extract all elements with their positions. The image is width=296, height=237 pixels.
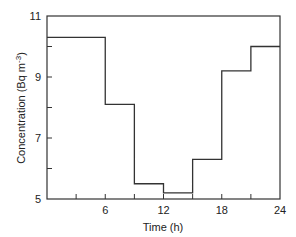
y-tick-label: 11 bbox=[30, 10, 41, 22]
x-tick-label: 6 bbox=[102, 204, 108, 216]
y-axis-title: Concentration (Bq m-3) bbox=[14, 52, 27, 164]
tick-labels: 612182457911 bbox=[30, 10, 287, 216]
step-line bbox=[47, 37, 280, 193]
x-tick-label: 18 bbox=[216, 204, 228, 216]
x-axis-title: Time (h) bbox=[143, 221, 184, 233]
y-axis-title-main: Concentration (Bq m bbox=[15, 63, 27, 164]
plot-frame bbox=[47, 16, 280, 199]
x-tick-label: 12 bbox=[157, 204, 169, 216]
y-axis-title-close: ) bbox=[15, 52, 27, 56]
x-tick-label: 24 bbox=[274, 204, 286, 216]
y-tick-label: 7 bbox=[35, 132, 41, 144]
y-tick-label: 9 bbox=[35, 71, 41, 83]
concentration-step-series bbox=[47, 37, 280, 193]
y-tick-label: 5 bbox=[35, 193, 41, 205]
axis-ticks bbox=[47, 47, 251, 200]
step-chart: 612182457911 Time (h) Concentration (Bq … bbox=[0, 0, 296, 237]
plot-border bbox=[47, 16, 280, 199]
